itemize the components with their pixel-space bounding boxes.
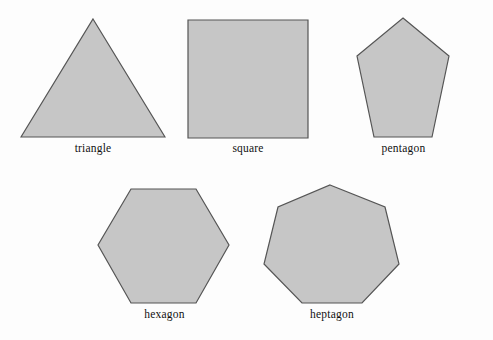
square-polygon <box>188 20 308 138</box>
hexagon-polygon <box>98 189 229 303</box>
label-hexagon: hexagon <box>95 308 234 320</box>
label-triangle: triangle <box>20 142 166 154</box>
shape-pentagon <box>356 12 451 144</box>
shape-triangle <box>20 12 166 144</box>
shapes-figure: triangle square pentagon hexagon heptago… <box>0 0 493 340</box>
heptagon-svg <box>258 179 406 309</box>
pentagon-polygon <box>357 18 449 137</box>
shape-heptagon <box>258 179 406 309</box>
triangle-svg <box>20 12 166 144</box>
shape-square <box>183 12 313 144</box>
pentagon-svg <box>356 12 451 144</box>
label-heptagon: heptagon <box>258 308 406 320</box>
square-svg <box>183 12 313 144</box>
shape-hexagon <box>95 181 234 309</box>
label-pentagon: pentagon <box>346 142 461 154</box>
hexagon-svg <box>95 181 234 309</box>
label-square: square <box>183 142 313 154</box>
triangle-polygon <box>21 19 165 137</box>
heptagon-polygon <box>264 185 399 303</box>
